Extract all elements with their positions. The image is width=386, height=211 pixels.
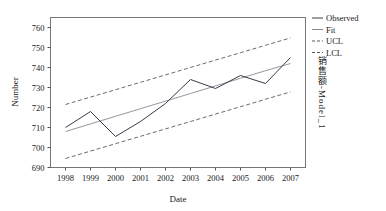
series-fit-line	[66, 64, 291, 132]
x-tick-label: 2003	[182, 173, 199, 183]
y-tick-label: 720	[32, 103, 45, 113]
y-axis-title: Number	[10, 77, 20, 107]
plot-frame	[51, 18, 306, 168]
legend-label-observed: Observed	[326, 13, 359, 23]
y-axis: 690700710720730740750760	[32, 23, 51, 173]
series-lcl-line	[66, 92, 291, 159]
x-tick-label: 2004	[207, 173, 225, 183]
y-tick-label: 690	[32, 163, 45, 173]
y-tick-label: 700	[32, 143, 45, 153]
x-axis: 1998199920002001200220032004200520062007	[57, 168, 299, 183]
x-tick-label: 1998	[57, 173, 74, 183]
x-tick-label: 2006	[257, 173, 274, 183]
y-tick-label: 740	[32, 63, 45, 73]
y-tick-label: 730	[32, 83, 45, 93]
y-tick-label: 750	[32, 43, 45, 53]
series-ucl-line	[66, 38, 291, 105]
legend-label-ucl: UCL	[326, 36, 343, 46]
y-tick-label: 760	[32, 23, 45, 33]
x-tick-label: 2001	[132, 173, 149, 183]
x-tick-label: 2002	[157, 173, 174, 183]
chart-legend: ObservedFitUCLLCL	[312, 13, 359, 58]
model-title-cjk: 销售额	[317, 56, 327, 86]
model-title-label: 销售额-Model_1	[316, 56, 330, 130]
x-tick-label: 2000	[107, 173, 124, 183]
model-title-latin: -Model_1	[317, 86, 327, 130]
x-tick-label: 1999	[82, 173, 99, 183]
x-tick-label: 2005	[232, 173, 249, 183]
chart-container: 690700710720730740750760 199819992000200…	[0, 0, 386, 211]
x-tick-label: 2007	[282, 173, 299, 183]
y-tick-label: 710	[32, 123, 45, 133]
x-axis-title: Date	[170, 194, 187, 204]
legend-label-fit: Fit	[326, 25, 336, 35]
